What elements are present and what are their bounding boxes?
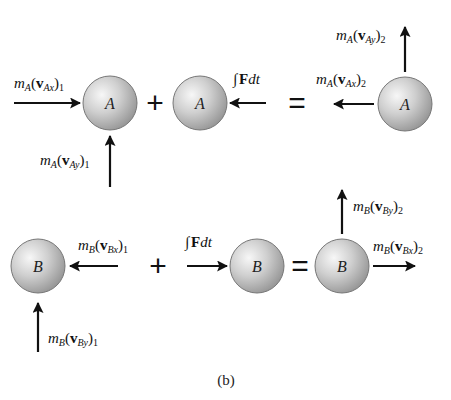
ball-letter: A [104, 95, 115, 112]
label-ma-vay-1: mA(vAy)1 [40, 152, 89, 170]
ball-letter: A [194, 95, 205, 112]
plus-sign-a: + [146, 86, 164, 119]
label-mb-vby-2: mB(vBy)2 [353, 198, 403, 216]
ball-b-final: B [315, 239, 369, 293]
label-ma-vax-1: mA(vAx)1 [14, 75, 64, 93]
impulse-momentum-diagram: A mA(vAx)1 mA(vAy)1 + A ∫Fdt = A mA(vAx)… [0, 0, 451, 400]
ball-b-impulse: B [230, 239, 284, 293]
ball-letter: B [337, 258, 347, 275]
plus-sign-b: + [149, 249, 167, 282]
label-ma-vay-2: mA(vAy)2 [336, 27, 385, 45]
equals-sign-b: = [291, 249, 309, 282]
label-mb-vby-1: mB(vBy)1 [48, 330, 98, 348]
label-impulse-a: ∫Fdt [232, 71, 261, 88]
ball-letter: B [33, 258, 43, 275]
equals-sign-a: = [288, 86, 306, 119]
ball-a-final: A [378, 77, 432, 131]
ball-letter: B [252, 258, 262, 275]
label-mb-vbx-1: mB(vBx)1 [78, 237, 128, 255]
ball-letter: A [399, 96, 410, 113]
figure-caption: (b) [217, 372, 235, 389]
label-impulse-b: ∫Fdt [184, 234, 213, 251]
ball-a-impulse: A [173, 76, 227, 130]
ball-b-initial: B [11, 239, 65, 293]
label-mb-vbx-2: mB(vBx)2 [373, 238, 423, 256]
label-ma-vax-2: mA(vAx)2 [316, 71, 366, 89]
ball-a-initial: A [83, 76, 137, 130]
